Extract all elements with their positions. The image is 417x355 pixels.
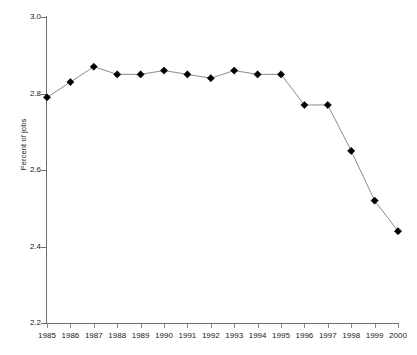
y-axis-line bbox=[46, 16, 47, 324]
x-tick-mark bbox=[234, 324, 235, 328]
y-tick-label-wrap: 3.0 bbox=[0, 12, 41, 22]
y-tick-mark bbox=[41, 17, 46, 18]
data-point-marker bbox=[137, 71, 144, 78]
data-point-marker bbox=[207, 75, 214, 82]
series-line bbox=[47, 67, 398, 231]
data-point-marker bbox=[348, 147, 355, 154]
x-tick-mark bbox=[164, 324, 165, 328]
x-tick-mark bbox=[375, 324, 376, 328]
x-tick-mark bbox=[94, 324, 95, 328]
x-tick-label: 2000 bbox=[380, 331, 416, 340]
data-point-marker bbox=[160, 67, 167, 74]
series-markers bbox=[43, 63, 401, 235]
y-tick-label-wrap: 2.2 bbox=[0, 318, 41, 328]
x-tick-mark bbox=[304, 324, 305, 328]
y-tick-label: 2.6 bbox=[15, 165, 41, 174]
x-tick-mark bbox=[70, 324, 71, 328]
y-tick-label: 2.8 bbox=[15, 89, 41, 98]
x-tick-mark bbox=[211, 324, 212, 328]
y-tick-label: 2.4 bbox=[15, 242, 41, 251]
x-tick-mark bbox=[141, 324, 142, 328]
y-tick-label-wrap: 2.8 bbox=[0, 89, 41, 99]
x-axis-line bbox=[46, 323, 399, 324]
y-tick-label-wrap: 2.6 bbox=[0, 165, 41, 175]
data-point-marker bbox=[324, 101, 331, 108]
y-tick-label-wrap: 2.4 bbox=[0, 242, 41, 252]
x-tick-mark bbox=[258, 324, 259, 328]
y-tick-mark bbox=[41, 247, 46, 248]
data-point-marker bbox=[301, 101, 308, 108]
data-point-marker bbox=[254, 71, 261, 78]
line-chart: Percent of jobs 3.02.82.62.42.2 19851986… bbox=[0, 0, 417, 355]
x-tick-mark bbox=[328, 324, 329, 328]
x-tick-mark bbox=[398, 324, 399, 328]
x-tick-mark bbox=[351, 324, 352, 328]
x-tick-mark bbox=[47, 324, 48, 328]
data-point-marker bbox=[277, 71, 284, 78]
y-tick-label: 2.2 bbox=[15, 318, 41, 327]
data-point-marker bbox=[394, 228, 401, 235]
data-point-marker bbox=[67, 78, 74, 85]
data-point-marker bbox=[90, 63, 97, 70]
data-point-marker bbox=[184, 71, 191, 78]
x-tick-mark bbox=[187, 324, 188, 328]
x-tick-mark bbox=[117, 324, 118, 328]
y-axis-title: Percent of jobs bbox=[19, 100, 28, 190]
data-point-marker bbox=[43, 94, 50, 101]
x-tick-mark bbox=[281, 324, 282, 328]
y-tick-mark bbox=[41, 170, 46, 171]
y-tick-mark bbox=[41, 323, 46, 324]
y-tick-mark bbox=[41, 94, 46, 95]
series-layer bbox=[0, 0, 417, 355]
y-tick-label: 3.0 bbox=[15, 12, 41, 21]
data-point-marker bbox=[231, 67, 238, 74]
data-point-marker bbox=[114, 71, 121, 78]
data-point-marker bbox=[371, 197, 378, 204]
